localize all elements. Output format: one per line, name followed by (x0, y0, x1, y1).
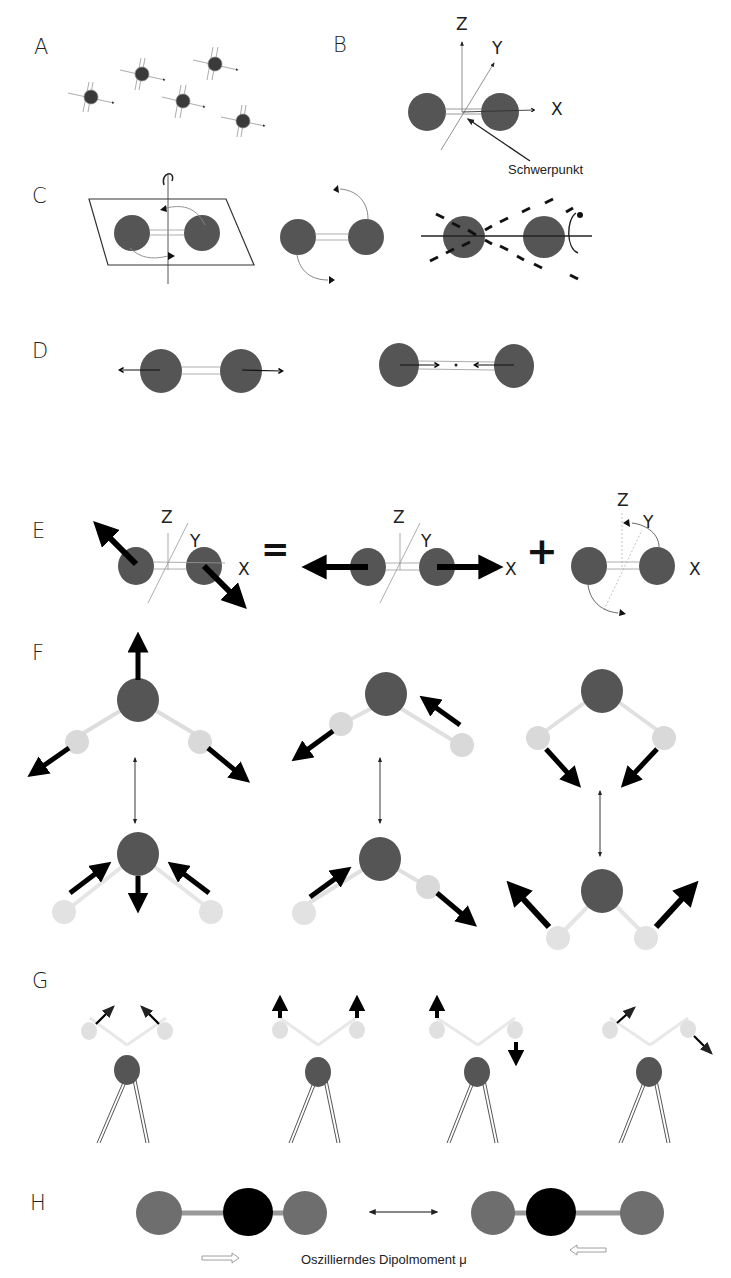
dipole-caption: Oszillierndes Dipolmoment μ (301, 1252, 467, 1267)
panel-label-c: C (32, 184, 47, 208)
atom (236, 114, 250, 128)
combined-motion: Z Y X (102, 507, 250, 603)
panel-label-h: H (30, 1191, 46, 1215)
panel-g: G (32, 969, 711, 1143)
atom (135, 67, 149, 81)
panel-d: D (32, 339, 534, 393)
axis-label-z: Z (617, 490, 629, 510)
symmetric-stretch-mode (36, 642, 242, 924)
rocking-mode (602, 1008, 711, 1143)
panel-f: F (32, 641, 690, 950)
axis-label-y: Y (189, 531, 201, 551)
center-of-mass-label: Schwerpunkt (508, 162, 584, 177)
axis-label-z: Z (161, 507, 173, 527)
panel-label-g: G (32, 969, 48, 993)
asymmetric-stretch-mode (292, 672, 474, 925)
axis-label-x: X (551, 99, 563, 119)
dipole-arrow-left-icon (570, 1245, 606, 1255)
rotation-mode-x (421, 199, 592, 279)
atom-left (408, 93, 446, 131)
rotation-component: Z Y X (571, 490, 701, 616)
axis-label-x: X (689, 559, 701, 579)
atom-right (481, 93, 519, 131)
axis-label-y: Y (420, 531, 432, 551)
equals-sign: = (261, 529, 290, 569)
dipole-state-right (471, 1188, 664, 1255)
panel-a: A (34, 35, 265, 137)
rotation-mode-z (89, 174, 254, 284)
axis-label-y: Y (642, 512, 654, 532)
atom (208, 57, 222, 71)
axis-label-x: X (238, 559, 250, 579)
axis-label-x: X (505, 559, 517, 579)
dipole-state-left (136, 1188, 327, 1263)
rotation-mode-y (280, 185, 384, 284)
panel-b: B Z Y X Schwerpunkt (333, 14, 584, 177)
atom (176, 94, 190, 108)
axis-label-z: Z (393, 507, 405, 527)
panel-e: E Z Y X = Z Y X (32, 490, 701, 616)
stretch-expanded (120, 349, 282, 393)
scissoring-mode (81, 1007, 173, 1143)
panel-label-b: B (333, 33, 347, 57)
vibration-rotation-diagram: A B (0, 0, 731, 1278)
translation-component: Z Y X (314, 507, 517, 603)
panel-label-f: F (32, 641, 44, 665)
wagging-mode (272, 1003, 365, 1143)
bending-mode (515, 669, 690, 950)
single-atom-group (68, 47, 265, 137)
panel-label-a: A (34, 35, 48, 59)
stretch-compressed (379, 343, 534, 388)
panel-label-e: E (32, 519, 45, 543)
axis-label-z: Z (456, 14, 468, 34)
plus-sign: + (526, 529, 558, 573)
dipole-arrow-right-icon (202, 1253, 239, 1263)
axis-label-y: Y (491, 38, 503, 58)
panel-label-d: D (32, 339, 48, 363)
panel-c: C (32, 174, 592, 284)
twisting-mode (429, 1003, 523, 1143)
atom (84, 90, 98, 104)
panel-h: H Oszillierndes Dipolmoment μ (30, 1188, 664, 1267)
